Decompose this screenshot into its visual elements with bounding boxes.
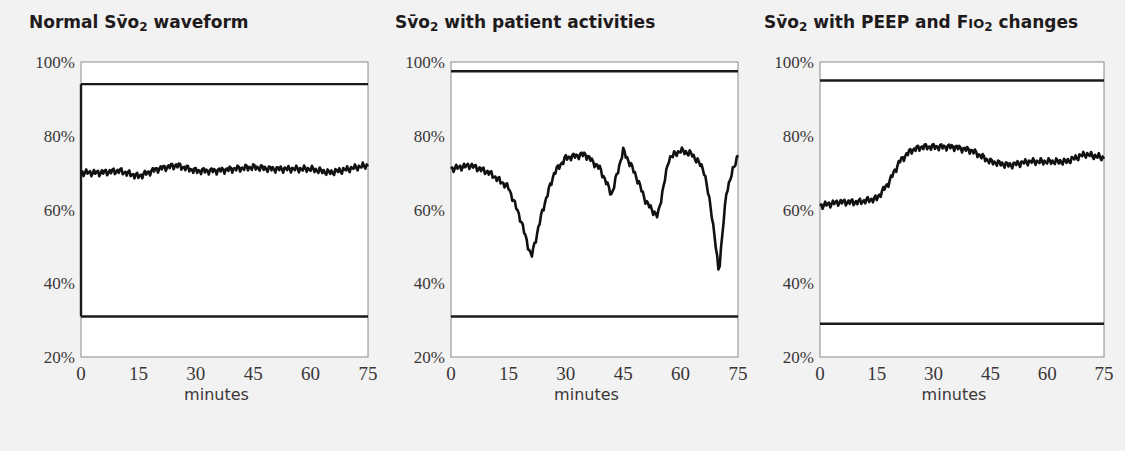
x-tick-label: 60: [671, 363, 690, 384]
x-tick-label: 0: [76, 363, 86, 384]
y-tick-label: 60%: [783, 201, 814, 220]
y-tick-label: 100%: [774, 53, 814, 72]
x-axis-label: minutes: [184, 385, 249, 404]
x-tick-label: 75: [1095, 363, 1114, 384]
chart-svg: 100%80%60%40%20%01530456075minutes: [370, 0, 745, 451]
y-tick-label: 100%: [405, 53, 445, 72]
x-tick-label: 15: [867, 363, 886, 384]
x-tick-label: 15: [499, 363, 518, 384]
x-tick-label: 30: [186, 363, 205, 384]
x-tick-label: 45: [981, 363, 1000, 384]
chart-panel-normal: Normal Sv̄o2 waveform 100%80%60%40%20%01…: [0, 0, 375, 451]
x-axis-label: minutes: [922, 385, 987, 404]
y-tick-label: 60%: [414, 201, 445, 220]
chart-svg: 100%80%60%40%20%01530456075minutes: [0, 0, 375, 451]
x-tick-label: 0: [815, 363, 825, 384]
x-tick-label: 30: [556, 363, 575, 384]
y-tick-label: 20%: [414, 348, 445, 367]
y-tick-label: 60%: [44, 201, 75, 220]
x-axis-label: minutes: [554, 385, 619, 404]
x-tick-label: 45: [244, 363, 263, 384]
x-tick-label: 0: [446, 363, 456, 384]
y-tick-label: 80%: [783, 127, 814, 146]
y-tick-label: 20%: [44, 348, 75, 367]
x-tick-label: 30: [924, 363, 943, 384]
y-tick-label: 40%: [783, 274, 814, 293]
plot-area: [81, 62, 368, 357]
chart-svg: 100%80%60%40%20%01530456075minutes: [745, 0, 1125, 451]
y-tick-label: 20%: [783, 348, 814, 367]
chart-panel-activities: Sv̄o2 with patient activities 100%80%60%…: [370, 0, 745, 451]
y-tick-label: 40%: [414, 274, 445, 293]
y-tick-label: 80%: [44, 127, 75, 146]
chart-panel-peep-fio2: Sv̄o2 with PEEP and FIO2 changes 100%80%…: [745, 0, 1125, 451]
x-tick-label: 45: [614, 363, 633, 384]
plot-area: [820, 62, 1104, 357]
y-tick-label: 100%: [35, 53, 75, 72]
x-tick-label: 60: [301, 363, 320, 384]
y-tick-label: 80%: [414, 127, 445, 146]
y-tick-label: 40%: [44, 274, 75, 293]
x-tick-label: 60: [1038, 363, 1057, 384]
x-tick-label: 15: [129, 363, 148, 384]
plot-area: [451, 62, 738, 357]
